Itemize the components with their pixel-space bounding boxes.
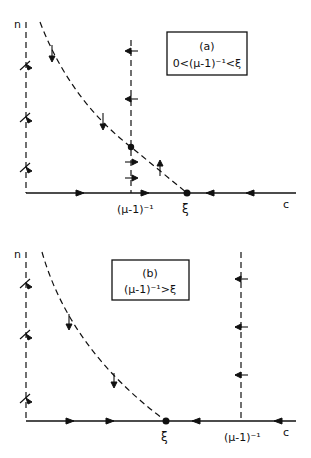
box-title-a: (a) bbox=[199, 40, 214, 53]
curve-flow-markers bbox=[66, 314, 117, 388]
fixed-point bbox=[128, 144, 134, 150]
arrow-left-icon bbox=[206, 190, 214, 196]
fixed-point-xi bbox=[163, 418, 170, 425]
panel-a: n c bbox=[14, 18, 296, 216]
arrow-left-icon bbox=[246, 190, 254, 196]
tick-label-mu: (μ-1)⁻¹ bbox=[117, 203, 154, 216]
arrow-right-icon bbox=[141, 190, 149, 196]
c-axis-label: c bbox=[283, 198, 289, 211]
curve-flow-markers bbox=[49, 45, 163, 176]
n-axis-label: n bbox=[14, 248, 21, 261]
arrow-right-icon bbox=[76, 190, 84, 196]
n-axis-label: n bbox=[14, 18, 21, 31]
curved-nullcline bbox=[40, 22, 187, 193]
fixed-point-xi bbox=[184, 190, 191, 197]
box-condition-b: (μ-1)⁻¹>ξ bbox=[124, 283, 176, 296]
arrow-right-icon bbox=[106, 418, 114, 424]
tick-label-xi: ξ bbox=[161, 430, 168, 444]
c-axis-label: c bbox=[283, 426, 289, 439]
arrow-left-icon bbox=[274, 418, 282, 424]
arrow-right-icon bbox=[66, 418, 74, 424]
tick-label-mu: (μ-1)⁻¹ bbox=[224, 431, 261, 444]
arrow-left-icon bbox=[192, 418, 200, 424]
box-title-b: (b) bbox=[142, 267, 158, 280]
box-condition-a: 0<(μ-1)⁻¹<ξ bbox=[173, 57, 241, 70]
phase-diagram: n c bbox=[0, 0, 311, 458]
panel-b: n c bbox=[14, 248, 296, 444]
tick-label-xi: ξ bbox=[182, 202, 189, 216]
